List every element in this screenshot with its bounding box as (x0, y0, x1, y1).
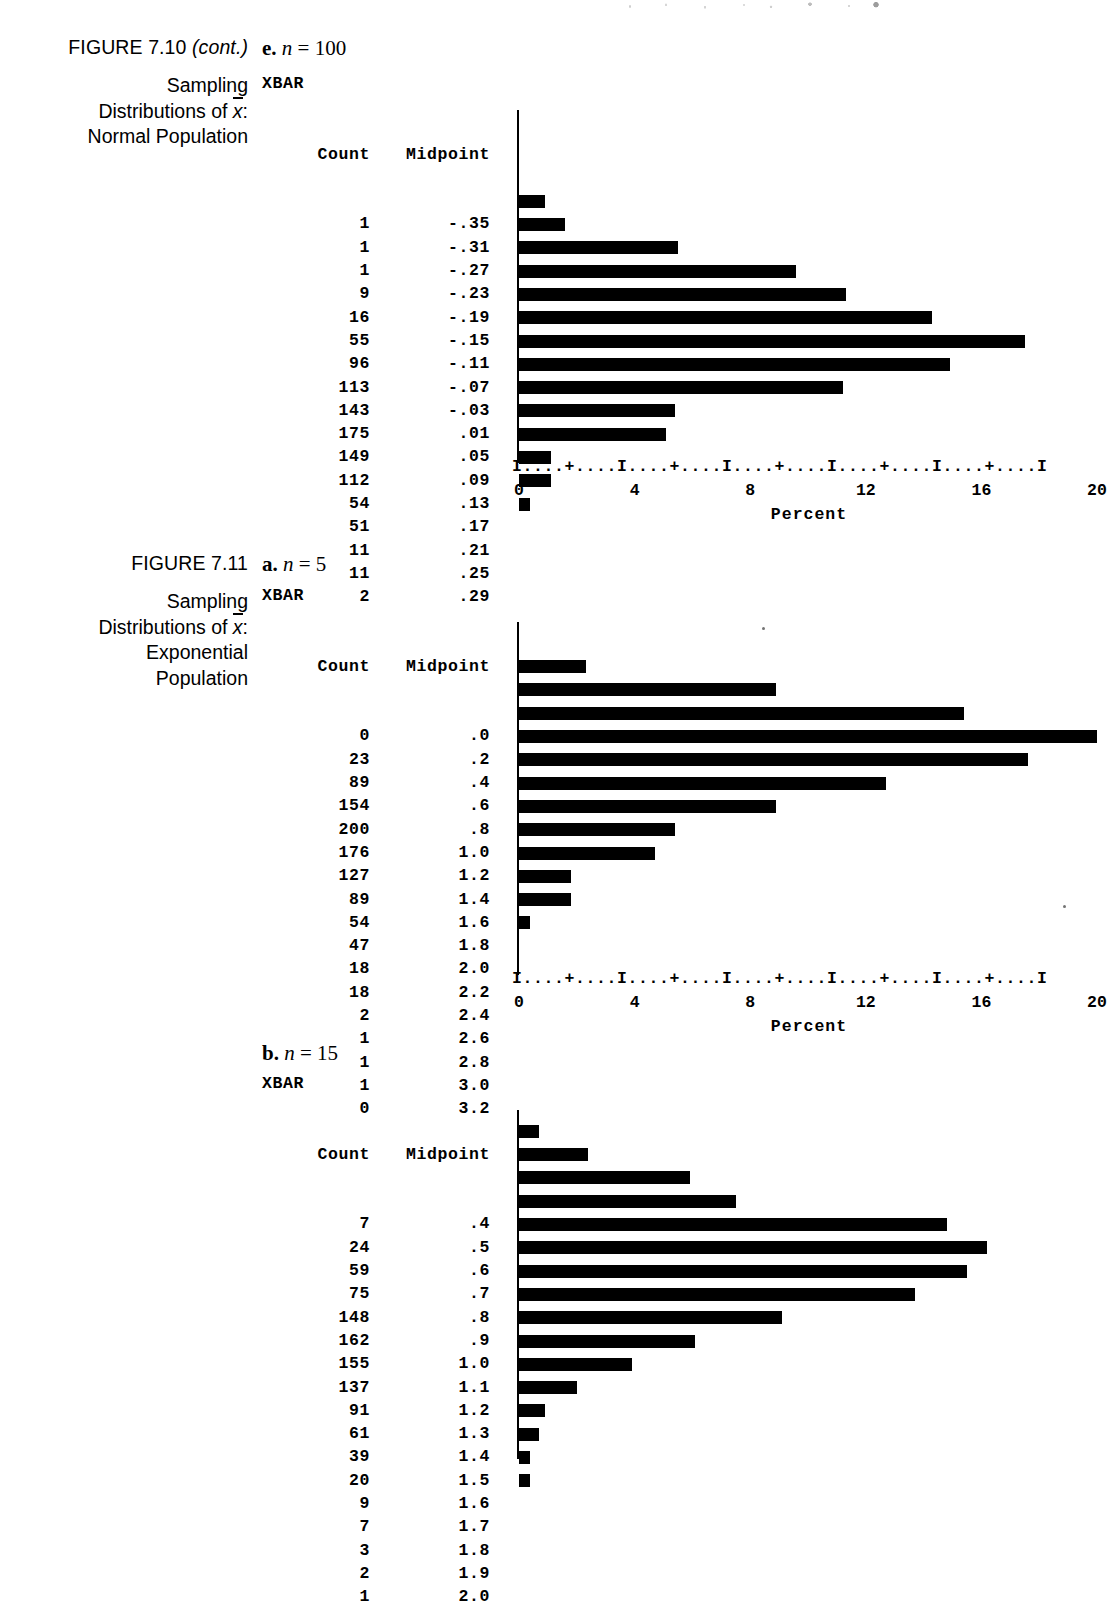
cell-count: 16 (262, 306, 370, 329)
cell-count: 2 (262, 1004, 370, 1027)
figure-7-10-title: FIGURE 7.10 (cont.) (0, 34, 248, 61)
bar (519, 335, 1025, 348)
figure-7-11-subtitle: Sampling Distributions of x: Exponential… (0, 589, 248, 691)
table-row: 182.2 (262, 981, 490, 1004)
column-header-midpoint: Midpoint (370, 143, 490, 166)
cell-midpoint: .0 (370, 724, 490, 747)
bar (519, 683, 776, 696)
bar (519, 265, 796, 278)
table-row: 22.4 (262, 1004, 490, 1027)
cell-count: 20 (262, 1469, 370, 1492)
printout-label-xbar-1: XBAR (262, 74, 304, 93)
cell-count: 59 (262, 1259, 370, 1282)
cell-count: 61 (262, 1422, 370, 1445)
cell-count: 1 (262, 259, 370, 282)
table-row: 182.0 (262, 957, 490, 980)
part-equals: = (298, 36, 310, 60)
figure-7-11-subtitle-line3: Exponential (0, 640, 248, 666)
cell-midpoint: 1.3 (370, 1422, 490, 1445)
table-row: 54.13 (262, 492, 490, 515)
table-row: 1371.1 (262, 1376, 490, 1399)
cell-count: 148 (262, 1306, 370, 1329)
axis-tick-label: 12 (856, 993, 876, 1012)
bar (519, 381, 843, 394)
figure-7-11-subtitle-line4: Population (0, 666, 248, 692)
part-equals: = (299, 552, 311, 576)
cell-count: 55 (262, 329, 370, 352)
bar (519, 1335, 695, 1348)
figure-7-10-subtitle-line2: Distributions of x: (0, 99, 248, 125)
bar (519, 428, 666, 441)
table-row: 0.0 (262, 724, 490, 747)
table-row: 31.8 (262, 1539, 490, 1562)
cell-count: 127 (262, 864, 370, 887)
cell-midpoint: 2.0 (370, 1585, 490, 1605)
table-row: 1551.0 (262, 1352, 490, 1375)
cell-count: 176 (262, 841, 370, 864)
table-row: 12.0 (262, 1585, 490, 1605)
table-row: 55-.15 (262, 329, 490, 352)
cell-count: 149 (262, 445, 370, 468)
table-row: 162.9 (262, 1329, 490, 1352)
table-row: 7.4 (262, 1212, 490, 1235)
cell-midpoint: 2.6 (370, 1027, 490, 1050)
column-header-midpoint: Midpoint (370, 1143, 490, 1166)
cell-midpoint: 1.9 (370, 1562, 490, 1585)
cell-midpoint: -.23 (370, 282, 490, 305)
cell-midpoint: -.15 (370, 329, 490, 352)
table-row: 611.3 (262, 1422, 490, 1445)
bar (519, 241, 678, 254)
table-row: 112.09 (262, 469, 490, 492)
bar (519, 195, 545, 208)
cell-midpoint: .5 (370, 1236, 490, 1259)
cell-midpoint: .17 (370, 515, 490, 538)
subtitle-suffix: : (243, 616, 248, 638)
cell-midpoint: .2 (370, 748, 490, 771)
cell-count: 9 (262, 282, 370, 305)
axis-tick-label: 4 (630, 481, 640, 500)
cell-count: 23 (262, 748, 370, 771)
cell-midpoint: 1.0 (370, 1352, 490, 1375)
bar (519, 1451, 530, 1464)
cell-count: 91 (262, 1399, 370, 1422)
bar (519, 707, 964, 720)
x-bar-symbol: x (233, 615, 243, 641)
part-heading-e: e. n = 100 (262, 36, 346, 61)
table-row: 1761.0 (262, 841, 490, 864)
axis-tick-label: 4 (630, 993, 640, 1012)
table-row: 891.4 (262, 888, 490, 911)
bar (519, 404, 675, 417)
subtitle-prefix: Distributions of (98, 616, 232, 638)
cell-midpoint: 1.6 (370, 911, 490, 934)
overbar (233, 97, 243, 99)
cell-count: 2 (262, 1562, 370, 1585)
figure-7-10-title-main: FIGURE 7.10 (68, 36, 186, 58)
part-heading-b: b. n = 15 (262, 1041, 338, 1066)
cell-midpoint: 1.8 (370, 934, 490, 957)
cell-count: 137 (262, 1376, 370, 1399)
cell-midpoint: .9 (370, 1329, 490, 1352)
cell-midpoint: 2.0 (370, 957, 490, 980)
table-row: 1-.31 (262, 236, 490, 259)
figure-7-11-title-main: FIGURE 7.11 (131, 552, 248, 574)
cell-count: 51 (262, 515, 370, 538)
cell-midpoint: 2.4 (370, 1004, 490, 1027)
table-row: 113-.07 (262, 376, 490, 399)
bar (519, 1358, 632, 1371)
part-heading-a: a. n = 5 (262, 552, 326, 577)
cell-count: 89 (262, 771, 370, 794)
printout-label-xbar-2: XBAR (262, 586, 304, 605)
column-header-count: Count (262, 1143, 370, 1166)
table-row: 16-.19 (262, 306, 490, 329)
cell-count: 1 (262, 236, 370, 259)
table-row: 89.4 (262, 771, 490, 794)
bar (519, 893, 571, 906)
cell-midpoint: -.03 (370, 399, 490, 422)
bar (519, 916, 530, 929)
bar (519, 1288, 915, 1301)
figure-7-11-subtitle-line1: Sampling (0, 589, 248, 615)
table-row: 154.6 (262, 794, 490, 817)
bar (519, 730, 1097, 743)
axis-ruler-2: I....+....I....+....I....+....I....+....… (512, 969, 1048, 988)
